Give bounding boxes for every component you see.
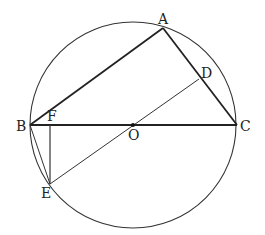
label-D: D <box>201 65 212 81</box>
label-F: F <box>47 108 57 124</box>
label-C: C <box>240 118 251 134</box>
segment-BE <box>30 125 50 184</box>
label-O: O <box>128 127 139 143</box>
label-A: A <box>157 11 169 27</box>
segment-AC <box>163 28 237 125</box>
label-B: B <box>16 118 26 134</box>
label-E: E <box>41 185 51 201</box>
geometry-diagram: A B C D E F O <box>0 0 265 235</box>
diagram-svg: A B C D E F O <box>0 0 265 235</box>
